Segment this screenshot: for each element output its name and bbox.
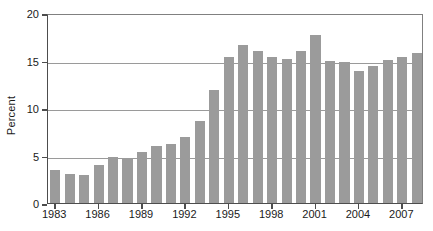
x-tick-label: 1998 xyxy=(259,208,283,220)
x-tick-label: 2007 xyxy=(389,208,413,220)
x-tick-label: 1992 xyxy=(172,208,196,220)
y-tick-label: 0 xyxy=(0,198,39,210)
y-tick-label: 10 xyxy=(0,103,39,115)
x-tick-label: 2004 xyxy=(346,208,370,220)
bar-1985 xyxy=(79,175,89,204)
y-tick-label: 5 xyxy=(0,151,39,163)
bar-2007 xyxy=(397,57,407,203)
bar-1988 xyxy=(122,158,132,203)
bar-2000 xyxy=(296,51,306,203)
y-axis-title: Percent xyxy=(2,0,20,231)
bar-1989 xyxy=(137,152,147,203)
bar-1990 xyxy=(151,146,161,203)
bar-1999 xyxy=(282,59,292,203)
x-tick-label: 1995 xyxy=(216,208,240,220)
x-tick-label: 1983 xyxy=(42,208,66,220)
bar-1992 xyxy=(180,137,190,203)
y-tick-mark xyxy=(42,204,47,206)
bar-1998 xyxy=(267,57,277,203)
bar-1995 xyxy=(224,57,234,203)
bar-1984 xyxy=(65,174,75,203)
bar-2001 xyxy=(310,35,320,203)
plot-area xyxy=(47,14,423,204)
x-tick-label: 1986 xyxy=(85,208,109,220)
bar-1994 xyxy=(209,90,219,203)
bar-2003 xyxy=(339,62,349,203)
y-tick-label: 15 xyxy=(0,56,39,68)
x-tick-label: 1989 xyxy=(129,208,153,220)
bar-1996 xyxy=(238,45,248,203)
bar-1987 xyxy=(108,157,118,203)
bar-1991 xyxy=(166,144,176,203)
bar-2002 xyxy=(325,61,335,203)
x-tick-label: 2001 xyxy=(302,208,326,220)
bar-2004 xyxy=(354,71,364,203)
bar-1983 xyxy=(50,170,60,203)
y-tick-label: 20 xyxy=(0,8,39,20)
bar-2005 xyxy=(368,66,378,203)
bar-series-layer xyxy=(48,15,422,203)
bar-1993 xyxy=(195,121,205,203)
bar-2008 xyxy=(412,53,422,203)
bar-chart-figure: Percent 05101520 19831986198919921995199… xyxy=(0,0,433,231)
bar-1997 xyxy=(253,51,263,203)
bar-1986 xyxy=(94,165,104,203)
bar-2006 xyxy=(383,60,393,203)
